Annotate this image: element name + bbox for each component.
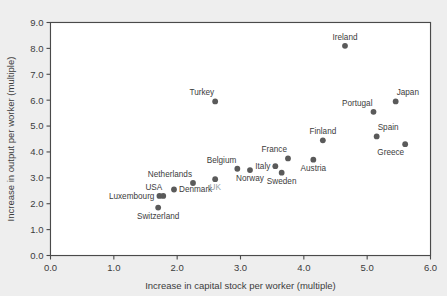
marker-spain[interactable] (374, 134, 380, 140)
point-label-switzerland: Switzerland (137, 212, 180, 221)
point-label-norway: Norway (236, 174, 265, 183)
point-label-belgium: Belgium (207, 156, 237, 165)
point-label-portugal: Portugal (342, 99, 373, 108)
marker-belgium[interactable] (234, 166, 240, 172)
x-tick-label-2: 2.0 (171, 262, 184, 273)
point-label-japan: Japan (397, 88, 420, 97)
x-tick-label-0: 0.0 (44, 262, 57, 273)
marker-finland[interactable] (320, 137, 326, 143)
marker-austria[interactable] (310, 157, 316, 163)
y-tick-label-9: 9.0 (30, 17, 43, 28)
y-tick-label-7: 7.0 (30, 69, 43, 80)
x-tick-label-1: 1.0 (107, 262, 120, 273)
y-tick-label-3: 3.0 (30, 172, 43, 183)
y-tick-label-0: 0.0 (30, 250, 43, 261)
scatter-plot-svg: 0.01.02.03.04.05.06.07.08.09.00.01.02.03… (0, 0, 447, 296)
marker-netherlands[interactable] (190, 180, 196, 186)
y-tick-label-8: 8.0 (30, 43, 43, 54)
marker-turkey[interactable] (212, 99, 218, 105)
marker-uk[interactable] (212, 176, 218, 182)
point-label-spain: Spain (378, 123, 399, 132)
point-label-netherlands: Netherlands (148, 170, 192, 179)
point-label-denmark: Denmark (179, 185, 213, 194)
y-axis-title: Increase in output per worker (multiple) (5, 57, 16, 222)
marker-portugal[interactable] (371, 109, 377, 115)
x-axis-title: Increase in capital stock per worker (mu… (145, 280, 336, 291)
x-tick-label-5: 5.0 (361, 262, 374, 273)
point-label-italy: Italy (255, 162, 271, 171)
marker-usa[interactable] (160, 193, 166, 199)
point-label-luxembourg: Luxembourg (109, 192, 155, 201)
marker-japan[interactable] (393, 99, 399, 105)
y-tick-label-2: 2.0 (30, 198, 43, 209)
x-tick-label-3: 3.0 (234, 262, 247, 273)
y-tick-label-5: 5.0 (30, 120, 43, 131)
y-tick-label-6: 6.0 (30, 95, 43, 106)
scatter-chart-figure: 0.01.02.03.04.05.06.07.08.09.00.01.02.03… (0, 0, 447, 296)
marker-switzerland[interactable] (155, 205, 161, 211)
point-label-austria: Austria (301, 164, 327, 173)
marker-greece[interactable] (402, 141, 408, 147)
point-label-sweden: Sweden (267, 177, 297, 186)
point-label-finland: Finland (309, 127, 336, 136)
plot-area-border (51, 23, 431, 256)
point-label-turkey: Turkey (189, 88, 215, 97)
y-tick-label-1: 1.0 (30, 224, 43, 235)
marker-norway[interactable] (247, 167, 253, 173)
marker-france[interactable] (285, 156, 291, 162)
x-tick-label-6: 6.0 (424, 262, 437, 273)
marker-italy[interactable] (272, 163, 278, 169)
y-tick-label-4: 4.0 (30, 146, 43, 157)
x-tick-label-4: 4.0 (297, 262, 310, 273)
point-label-greece: Greece (377, 148, 404, 157)
marker-ireland[interactable] (342, 43, 348, 49)
marker-sweden[interactable] (279, 170, 285, 176)
point-label-ireland: Ireland (332, 33, 357, 42)
point-label-uk: UK (209, 183, 221, 192)
data-point-luxembourg[interactable]: Luxembourg (109, 192, 162, 201)
marker-denmark[interactable] (171, 187, 177, 193)
point-label-usa: USA (145, 183, 162, 192)
point-label-france: France (262, 145, 288, 154)
